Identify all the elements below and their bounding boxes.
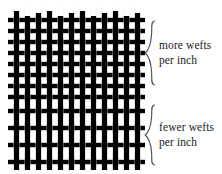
warp-float (91, 123, 96, 133)
warp-float (47, 70, 52, 80)
warp-float (124, 59, 129, 69)
warp-float (124, 106, 129, 116)
warp-float (102, 15, 107, 25)
warp-float (80, 140, 85, 150)
warp-float (80, 59, 85, 69)
warp-float (124, 15, 129, 25)
warp-float (91, 92, 96, 102)
warp-float (14, 37, 19, 47)
warp-float (102, 140, 107, 150)
warp-float (80, 37, 85, 47)
warp-float (113, 92, 118, 102)
warp-float (58, 59, 63, 69)
warp-float (25, 123, 30, 133)
warp-float (58, 37, 63, 47)
warp-float (135, 157, 140, 167)
warp-float (135, 123, 140, 133)
warp-float (113, 70, 118, 80)
warp-float (25, 26, 30, 36)
weave-illustration (8, 4, 146, 170)
warp-float (36, 106, 41, 116)
warp-float (80, 106, 85, 116)
warp-float (47, 157, 52, 167)
warp-float (135, 92, 140, 102)
warp-float (113, 26, 118, 36)
warp-float (124, 140, 129, 150)
annotation-more-wefts-label: more wefts per inch (159, 38, 211, 68)
warp-float (14, 140, 19, 150)
warp-float (36, 81, 41, 91)
annotation-more-wefts: more wefts per inch (144, 20, 211, 86)
warp-float (58, 106, 63, 116)
warp-float (135, 70, 140, 80)
warp-float (80, 15, 85, 25)
warp-float (69, 48, 74, 58)
warp-float (14, 106, 19, 116)
warp-float (58, 15, 63, 25)
warp-float (113, 48, 118, 58)
warp-float (36, 140, 41, 150)
warp-float (91, 70, 96, 80)
warp-float (25, 70, 30, 80)
warp-float (102, 59, 107, 69)
warp-float (113, 123, 118, 133)
warp-float (69, 123, 74, 133)
warp-float (69, 157, 74, 167)
annotation-fewer-wefts: fewer wefts per inch (144, 104, 214, 166)
warp-float (91, 157, 96, 167)
warp-float (91, 48, 96, 58)
warp-float (58, 140, 63, 150)
label-line-1: more wefts (159, 38, 211, 53)
warp-float (36, 59, 41, 69)
weave-diagram (8, 4, 146, 170)
weave-threads (8, 4, 145, 170)
curly-brace-right-icon (144, 20, 156, 86)
warp-float (102, 81, 107, 91)
warp-float (69, 26, 74, 36)
warp-float (135, 26, 140, 36)
label-line-2: per inch (159, 135, 214, 150)
warp-float (36, 37, 41, 47)
warp-float (69, 70, 74, 80)
annotation-fewer-wefts-label: fewer wefts per inch (159, 120, 214, 150)
warp-float (47, 92, 52, 102)
warp-float (47, 123, 52, 133)
warp-float (25, 48, 30, 58)
warp-float (135, 48, 140, 58)
warp-float (25, 157, 30, 167)
warp-float (25, 92, 30, 102)
warp-float (47, 26, 52, 36)
warp-float (124, 37, 129, 47)
warp-float (14, 15, 19, 25)
warp-float (102, 106, 107, 116)
warp-float (36, 15, 41, 25)
warp-float (14, 81, 19, 91)
warp-float (69, 92, 74, 102)
warp-float (102, 37, 107, 47)
warp-float (80, 81, 85, 91)
warp-float (124, 81, 129, 91)
warp-float (91, 26, 96, 36)
warp-float (58, 81, 63, 91)
curly-brace-right-icon (144, 104, 156, 166)
warp-float (14, 59, 19, 69)
label-line-1: fewer wefts (159, 120, 214, 135)
warp-float (113, 157, 118, 167)
label-line-2: per inch (159, 53, 211, 68)
warp-float (47, 48, 52, 58)
